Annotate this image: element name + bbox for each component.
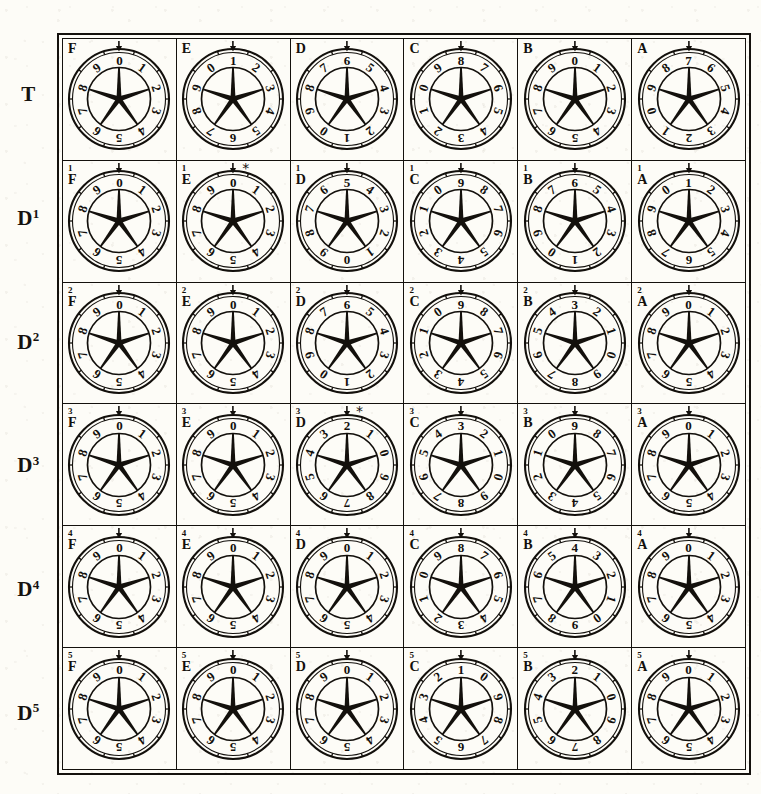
cipher-wheel[interactable]: 0123456789 bbox=[181, 413, 285, 517]
wheel-cell-letter: B bbox=[523, 173, 532, 187]
cipher-wheel[interactable]: 0123456789 bbox=[637, 291, 741, 395]
wheel-digit-text: 0 bbox=[116, 297, 123, 313]
cipher-wheel[interactable]: 1234567890 bbox=[181, 47, 285, 151]
wheel-digit-text: 4 bbox=[571, 540, 578, 556]
wheel-cell-d1-d[interactable]: 1D5678901234 bbox=[291, 161, 405, 282]
wheel-digit-text: 3 bbox=[147, 349, 164, 360]
cipher-wheel[interactable]: 0123456789 bbox=[295, 657, 399, 761]
wheel-cell-t-b[interactable]: B0123456789 bbox=[518, 39, 632, 160]
cipher-wheel[interactable]: 0123456789 bbox=[67, 47, 171, 151]
wheel-cell-d1-a[interactable]: 1A1234567890 bbox=[632, 161, 745, 282]
wheel-cell-d3-e[interactable]: 3E0123456789 bbox=[177, 404, 291, 525]
wheel-cell-d4-d[interactable]: 4D0123456789 bbox=[291, 526, 405, 647]
wheel-digit-ring: 0123456789 bbox=[181, 291, 285, 395]
cipher-wheel[interactable]: 2345678901 bbox=[523, 657, 627, 761]
cipher-wheel[interactable]: 3456789012 bbox=[409, 413, 513, 517]
wheel-cell-d5-b[interactable]: 5B2345678901 bbox=[518, 648, 632, 769]
wheel-cell-d3-d[interactable]: 3D*2345678901 bbox=[291, 404, 405, 525]
cipher-wheel[interactable]: 8901234567 bbox=[409, 535, 513, 639]
cipher-wheel[interactable]: 2345678901 bbox=[295, 413, 399, 517]
wheel-cell-d5-d[interactable]: 5D0123456789 bbox=[291, 648, 405, 769]
cipher-wheel[interactable]: 0123456789 bbox=[181, 657, 285, 761]
wheel-digit-text: 0 bbox=[317, 366, 332, 383]
cipher-wheel[interactable]: 6789012345 bbox=[295, 47, 399, 151]
wheel-digit-text: 2 bbox=[375, 228, 392, 239]
wheel-cell-d5-e[interactable]: 5E0123456789 bbox=[177, 648, 291, 769]
wheel-cell-d1-e[interactable]: 1E*0123456789 bbox=[177, 161, 291, 282]
wheel-cell-d3-a[interactable]: 3A0123456789 bbox=[632, 404, 745, 525]
wheel-digit-text: 5 bbox=[685, 495, 692, 511]
wheel-digit-text: 1 bbox=[362, 547, 377, 564]
wheel-digit-text: 2 bbox=[147, 447, 164, 458]
wheel-cell-t-a[interactable]: A7890123456 bbox=[632, 39, 745, 160]
cipher-wheel[interactable]: 0123456789 bbox=[67, 535, 171, 639]
cipher-wheel[interactable]: 0123456789 bbox=[67, 413, 171, 517]
wheel-cell-label: 3C bbox=[409, 407, 419, 430]
wheel-digit-ring: 2345678901 bbox=[523, 657, 627, 761]
cipher-wheel[interactable]: 0123456789 bbox=[67, 169, 171, 273]
wheel-cell-d3-c[interactable]: 3C3456789012 bbox=[404, 404, 518, 525]
wheel-cell-t-e[interactable]: E1234567890 bbox=[177, 39, 291, 160]
cipher-wheel[interactable]: 0123456789 bbox=[67, 657, 171, 761]
wheel-cell-d1-f[interactable]: 1F0123456789 bbox=[63, 161, 177, 282]
wheel-digit-text: 7 bbox=[431, 488, 446, 505]
cipher-wheel[interactable]: 3456789012 bbox=[523, 291, 627, 395]
cipher-wheel[interactable]: 9012345678 bbox=[523, 413, 627, 517]
cipher-wheel[interactable]: 7890123456 bbox=[637, 47, 741, 151]
index-pointer-icon bbox=[344, 163, 351, 174]
cipher-wheel[interactable]: 9012345678 bbox=[409, 291, 513, 395]
wheel-cell-d2-d[interactable]: 2D6789012345 bbox=[291, 283, 405, 404]
cipher-wheel[interactable]: 4567890123 bbox=[523, 535, 627, 639]
wheel-cell-t-c[interactable]: C8901234567 bbox=[404, 39, 518, 160]
cipher-wheel[interactable]: 0123456789 bbox=[637, 413, 741, 517]
wheel-cell-d4-e[interactable]: 4E0123456789 bbox=[177, 526, 291, 647]
wheel-cell-d4-c[interactable]: 4C8901234567 bbox=[404, 526, 518, 647]
cipher-wheel[interactable]: 6789012345 bbox=[295, 291, 399, 395]
wheel-cell-d2-e[interactable]: 2E0123456789 bbox=[177, 283, 291, 404]
wheel-cell-letter: C bbox=[409, 660, 419, 674]
wheel-cell-d1-c[interactable]: 1C9012345678 bbox=[404, 161, 518, 282]
wheel-digit-text: 5 bbox=[431, 731, 446, 748]
wheel-digit-text: 8 bbox=[302, 569, 319, 580]
wheel-cell-d3-b[interactable]: 3B9012345678 bbox=[518, 404, 632, 525]
wheel-cell-d2-c[interactable]: 2C9012345678 bbox=[404, 283, 518, 404]
cipher-wheel[interactable]: 0123456789 bbox=[637, 535, 741, 639]
wheel-digit-text: 5 bbox=[529, 326, 546, 337]
wheel-digit-text: 6 bbox=[545, 731, 560, 748]
wheel-digit-text: 4 bbox=[603, 204, 620, 215]
wheel-digit-text: 0 bbox=[659, 182, 674, 199]
wheel-cell-d5-f[interactable]: 5F0123456789 bbox=[63, 648, 177, 769]
cipher-wheel[interactable]: 0123456789 bbox=[181, 169, 285, 273]
wheel-cell-d2-f[interactable]: 2F0123456789 bbox=[63, 283, 177, 404]
wheel-cell-d4-a[interactable]: 4A0123456789 bbox=[632, 526, 745, 647]
cipher-wheel[interactable]: 0123456789 bbox=[67, 291, 171, 395]
cipher-wheel[interactable]: 0123456789 bbox=[637, 657, 741, 761]
cipher-wheel[interactable]: 0123456789 bbox=[181, 291, 285, 395]
wheel-digit-text: 4 bbox=[476, 609, 491, 626]
cipher-wheel[interactable]: 5678901234 bbox=[295, 169, 399, 273]
wheel-digit-ring: 0123456789 bbox=[181, 657, 285, 761]
wheel-cell-t-f[interactable]: F0123456789 bbox=[63, 39, 177, 160]
cipher-wheel[interactable]: 0123456789 bbox=[523, 47, 627, 151]
wheel-cell-d4-f[interactable]: 4F0123456789 bbox=[63, 526, 177, 647]
wheel-digit-text: 9 bbox=[545, 60, 560, 77]
wheel-cell-d1-b[interactable]: 1B6789012345 bbox=[518, 161, 632, 282]
wheel-cell-d5-a[interactable]: 5A0123456789 bbox=[632, 648, 745, 769]
cipher-wheel[interactable]: 1234567890 bbox=[409, 657, 513, 761]
wheel-cell-d2-a[interactable]: 2A0123456789 bbox=[632, 283, 745, 404]
cipher-wheel[interactable]: 0123456789 bbox=[181, 535, 285, 639]
cipher-wheel[interactable]: 9012345678 bbox=[409, 169, 513, 273]
wheel-digit-text: 4 bbox=[529, 691, 546, 702]
cipher-wheel[interactable]: 6789012345 bbox=[523, 169, 627, 273]
cipher-wheel[interactable]: 1234567890 bbox=[637, 169, 741, 273]
cipher-wheel[interactable]: 0123456789 bbox=[295, 535, 399, 639]
wheel-digit-text: 4 bbox=[249, 488, 264, 505]
wheel-digit-text: 8 bbox=[489, 715, 506, 726]
wheel-cell-d2-b[interactable]: 2B3456789012 bbox=[518, 283, 632, 404]
wheel-cell-d5-c[interactable]: 5C1234567890 bbox=[404, 648, 518, 769]
cipher-wheel[interactable]: 8901234567 bbox=[409, 47, 513, 151]
wheel-cell-d4-b[interactable]: 4B4567890123 bbox=[518, 526, 632, 647]
wheel-digit-text: 6 bbox=[344, 53, 351, 69]
wheel-cell-d3-f[interactable]: 3F0123456789 bbox=[63, 404, 177, 525]
wheel-cell-t-d[interactable]: D6789012345 bbox=[291, 39, 405, 160]
